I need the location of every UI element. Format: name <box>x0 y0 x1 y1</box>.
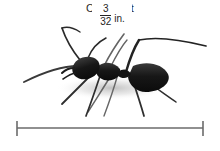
fraction-denominator: 32 <box>99 16 112 27</box>
scale-bar <box>0 118 220 151</box>
scale-measure-label: 3 32 in. <box>92 0 132 30</box>
crazy-ant-figure: Crazy ant <box>0 0 220 151</box>
ant-icon <box>0 16 220 120</box>
ant-antennae <box>62 27 106 60</box>
measurement-unit: in. <box>114 13 125 24</box>
fraction-numerator: 3 <box>102 4 110 15</box>
measurement-fraction: 3 32 <box>99 4 112 27</box>
